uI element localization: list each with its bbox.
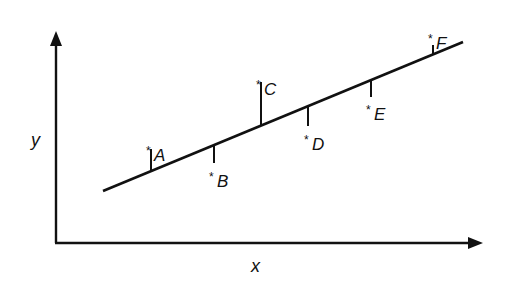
point-e-label: E [374,105,386,124]
x-axis-label: x [250,256,261,276]
point-c-label: C [264,80,277,99]
y-axis-label: y [29,130,41,150]
point-f: * F [428,32,448,53]
point-d-star: * [304,133,309,147]
point-d-label: D [312,135,324,154]
point-c: * C [256,78,277,99]
point-e-star: * [366,103,371,117]
axes: y x [29,31,483,276]
point-b-star: * [209,170,214,184]
point-a-label: A [153,146,165,165]
regression-diagram: y x * A * B * C * D * E [0,0,506,282]
residuals [151,45,433,171]
point-b-label: B [217,172,228,191]
point-e: * E [366,103,386,124]
point-b: * B [209,170,228,191]
regression-line [103,42,463,191]
point-f-star: * [428,32,433,46]
point-f-label: F [436,34,448,53]
point-a: * A [146,144,165,165]
x-axis-arrow-icon [468,237,483,249]
point-d: * D [304,133,324,154]
point-a-star: * [146,144,151,158]
y-axis-arrow-icon [50,31,62,46]
point-c-star: * [256,78,261,92]
